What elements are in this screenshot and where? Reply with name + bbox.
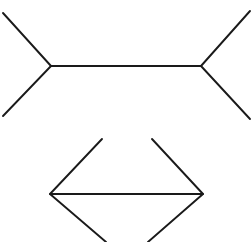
- bottom-fin-lower-right: [148, 194, 203, 242]
- top-fin-upper-right: [201, 11, 250, 66]
- bottom-fin-lower-left: [50, 194, 106, 242]
- muller-lyer-figure: [0, 0, 252, 242]
- top-fin-upper-left: [3, 13, 51, 66]
- top-fin-lower-left: [3, 66, 51, 116]
- top-fin-lower-right: [201, 66, 250, 119]
- bottom-fin-upper-right: [152, 139, 203, 194]
- top-figure-group: [3, 11, 250, 119]
- figure-svg: [0, 0, 252, 242]
- bottom-figure-group: [50, 139, 203, 242]
- bottom-fin-upper-left: [50, 139, 102, 194]
